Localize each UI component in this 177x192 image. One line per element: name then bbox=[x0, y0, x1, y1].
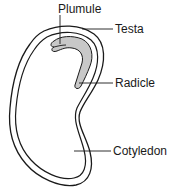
plumule-label: Plumule bbox=[58, 2, 101, 16]
seed-diagram: Plumule Testa Radicle Cotyledon bbox=[0, 0, 177, 192]
testa-label: Testa bbox=[115, 22, 144, 36]
cotyledon-label: Cotyledon bbox=[113, 144, 167, 158]
embryo-shape bbox=[51, 37, 92, 89]
radicle-label: Radicle bbox=[115, 76, 155, 90]
seed-drawing bbox=[0, 0, 177, 192]
